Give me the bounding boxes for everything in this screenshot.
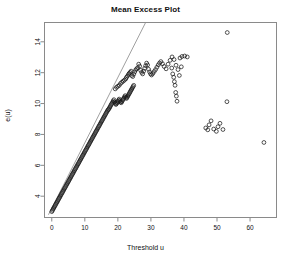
series-mean-excess — [50, 83, 136, 213]
plot-canvas: 0102030405060468101214 — [0, 0, 291, 264]
x-axis-label: Threshold u — [0, 244, 291, 251]
data-points — [50, 31, 266, 214]
series-upper-scatter — [113, 54, 189, 91]
svg-text:50: 50 — [213, 224, 221, 231]
svg-text:60: 60 — [246, 224, 254, 231]
diagonal-reference-line — [48, 23, 145, 215]
svg-text:14: 14 — [34, 38, 41, 46]
svg-text:0: 0 — [50, 224, 54, 231]
svg-text:40: 40 — [180, 224, 188, 231]
svg-text:12: 12 — [34, 69, 41, 77]
y-axis-label: e(u) — [4, 96, 11, 136]
svg-text:10: 10 — [81, 224, 89, 231]
svg-text:20: 20 — [114, 224, 122, 231]
svg-text:6: 6 — [34, 163, 41, 167]
svg-text:8: 8 — [34, 132, 41, 136]
mean-excess-plot-figure: Mean Excess Plot 0102030405060468101214 … — [0, 0, 291, 264]
series-isolated-points — [225, 31, 266, 145]
svg-text:4: 4 — [34, 194, 41, 198]
tick-marks — [41, 42, 251, 222]
svg-text:30: 30 — [147, 224, 155, 231]
plot-box — [45, 23, 277, 218]
series-low-right-cluster — [204, 119, 225, 133]
svg-text:10: 10 — [34, 100, 41, 108]
